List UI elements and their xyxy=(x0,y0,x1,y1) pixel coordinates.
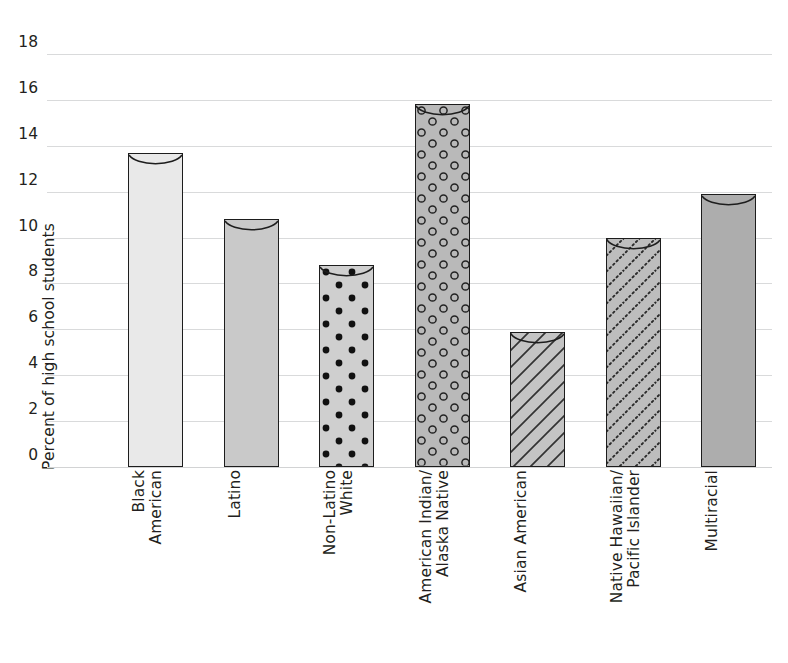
bar-0[interactable] xyxy=(128,153,183,467)
bar-2[interactable] xyxy=(319,265,374,467)
bar-pattern-diagonal-dotted xyxy=(607,239,660,466)
bar-pattern-circles-open xyxy=(416,105,469,466)
plot-area: 181614121086420 xyxy=(47,54,772,467)
x-axis-label-0: BlackAmerican xyxy=(131,470,191,660)
x-axis-labels: BlackAmericanLatinoNon-LatinoWhiteAmeric… xyxy=(47,470,772,660)
bar-3[interactable] xyxy=(415,104,470,467)
y-tick-label-6: 6 xyxy=(28,308,38,329)
y-tick-label-2: 2 xyxy=(28,400,38,421)
bar-series xyxy=(47,54,772,467)
x-axis-label-6-line-0: Multiracial xyxy=(704,470,720,552)
bar-5[interactable] xyxy=(606,238,661,467)
x-axis-label-1-line-0: Latino xyxy=(227,470,243,518)
y-tick-label-16: 16 xyxy=(18,79,38,100)
x-axis-label-4: Asian American xyxy=(513,470,573,660)
x-axis-label-3-line-0: American Indian/ xyxy=(418,470,434,603)
y-tick-label-0: 0 xyxy=(28,446,38,467)
bar-4[interactable] xyxy=(510,332,565,467)
bar-6[interactable] xyxy=(701,194,756,467)
x-axis-label-1: Latino xyxy=(227,470,287,660)
y-tick-label-4: 4 xyxy=(28,354,38,375)
x-axis-label-3: American Indian/Alaska Native xyxy=(418,470,478,660)
bar-pattern-solid xyxy=(702,195,755,466)
y-tick-label-8: 8 xyxy=(28,262,38,283)
bar-pattern-solid xyxy=(225,220,278,466)
x-axis-label-5-line-1: Pacific Islander xyxy=(626,470,642,588)
bar-pattern-solid xyxy=(129,154,182,466)
bar-pattern-dots-filled xyxy=(320,266,373,466)
x-axis-label-5: Native Hawaiian/Pacific Islander xyxy=(609,470,669,660)
gridline-0: 0 xyxy=(47,467,772,468)
x-axis-label-0-line-1: American xyxy=(148,470,164,545)
x-axis-label-6: Multiracial xyxy=(704,470,764,660)
y-tick-label-10: 10 xyxy=(18,217,38,238)
y-tick-label-18: 18 xyxy=(18,33,38,54)
y-tick-label-14: 14 xyxy=(18,125,38,146)
bar-1[interactable] xyxy=(224,219,279,467)
bar-pattern-diagonal-lines xyxy=(511,333,564,466)
x-axis-label-5-line-0: Native Hawaiian/ xyxy=(609,470,625,603)
x-axis-label-3-line-1: Alaska Native xyxy=(435,470,451,577)
bar-chart: Percent of high school students 18161412… xyxy=(0,0,788,663)
y-tick-label-12: 12 xyxy=(18,171,38,192)
x-axis-label-2-line-1: White xyxy=(339,470,355,516)
x-axis-label-4-line-0: Asian American xyxy=(513,470,529,592)
x-axis-label-2: Non-LatinoWhite xyxy=(322,470,382,660)
x-axis-label-2-line-0: Non-Latino xyxy=(322,470,338,555)
x-axis-label-0-line-0: Black xyxy=(131,470,147,512)
